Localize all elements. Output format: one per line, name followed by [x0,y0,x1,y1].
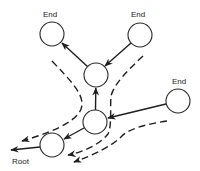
label-root: Root [12,157,30,166]
label-end-top-right: End [131,10,145,19]
node-end-top-right [128,23,152,47]
label-end-top-left: End [43,10,57,19]
node-lower-left [40,133,64,157]
tree-diagram: End End End Root [0,0,200,171]
node-end-top-left [40,22,64,46]
edge-lower-left-to-root [11,147,40,150]
edge-mid-lower-to-lower-left [64,128,84,139]
edge-mid-upper-to-end-top-left [62,43,88,67]
node-mid-lower [83,110,107,134]
node-end-right [166,89,190,113]
edge-end-top-right-to-mid-upper [105,43,131,66]
edge-end-right-to-mid-lower [108,104,166,118]
label-end-right: End [172,77,186,86]
dashed-path-left [22,61,82,141]
node-mid-upper [84,63,108,87]
